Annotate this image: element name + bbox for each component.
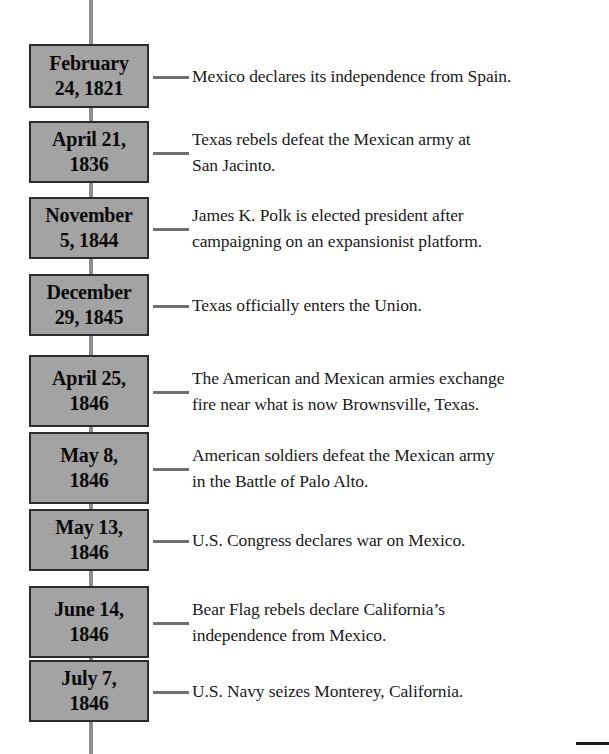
event-description-line: independence from Mexico. bbox=[192, 622, 592, 648]
event-connector-line bbox=[153, 540, 189, 543]
event-date-line: May 8, bbox=[60, 443, 118, 468]
event-description-line: American soldiers defeat the Mexican arm… bbox=[192, 442, 592, 468]
event-description-line: Texas officially enters the Union. bbox=[192, 292, 592, 318]
event-date-line: December bbox=[46, 280, 131, 305]
event-description-line: James K. Polk is elected president after bbox=[192, 202, 592, 228]
event-description-line: Texas rebels defeat the Mexican army at bbox=[192, 126, 592, 152]
event-description: Texas rebels defeat the Mexican army atS… bbox=[192, 126, 592, 178]
event-connector-line bbox=[153, 228, 189, 231]
event-connector-line bbox=[153, 76, 189, 79]
page-edge-mark bbox=[576, 742, 609, 745]
event-date-line: April 25, bbox=[52, 366, 126, 391]
event-description: Mexico declares its independence from Sp… bbox=[192, 63, 592, 89]
event-date-line: 5, 1844 bbox=[60, 228, 119, 253]
event-date-box[interactable]: May 8,1846 bbox=[29, 432, 149, 504]
event-date-box[interactable]: November5, 1844 bbox=[29, 197, 149, 259]
event-date-line: 24, 1821 bbox=[55, 76, 123, 101]
event-connector-line bbox=[153, 691, 189, 694]
event-date-line: February bbox=[49, 51, 129, 76]
event-connector-line bbox=[153, 468, 189, 471]
event-date-line: 1846 bbox=[69, 622, 108, 647]
event-description-line: San Jacinto. bbox=[192, 152, 592, 178]
event-date-line: 1846 bbox=[69, 468, 108, 493]
event-description-line: Bear Flag rebels declare California’s bbox=[192, 596, 592, 622]
event-description-line: campaigning on an expansionist platform. bbox=[192, 228, 592, 254]
event-date-box[interactable]: April 25,1846 bbox=[29, 355, 149, 427]
event-date-line: May 13, bbox=[55, 515, 122, 540]
event-description: American soldiers defeat the Mexican arm… bbox=[192, 442, 592, 494]
event-description-line: U.S. Congress declares war on Mexico. bbox=[192, 527, 592, 553]
event-date-box[interactable]: May 13,1846 bbox=[29, 509, 149, 571]
event-description: Bear Flag rebels declare California’sind… bbox=[192, 596, 592, 648]
event-connector-line bbox=[153, 391, 189, 394]
event-description-line: Mexico declares its independence from Sp… bbox=[192, 63, 592, 89]
event-date-line: 1846 bbox=[69, 391, 108, 416]
event-date-box[interactable]: February24, 1821 bbox=[29, 44, 149, 108]
event-date-line: July 7, bbox=[61, 666, 116, 691]
event-description: The American and Mexican armies exchange… bbox=[192, 365, 592, 417]
event-description: U.S. Navy seizes Monterey, California. bbox=[192, 678, 592, 704]
event-date-line: 1846 bbox=[69, 540, 108, 565]
event-description: James K. Polk is elected president after… bbox=[192, 202, 592, 254]
event-description-line: fire near what is now Brownsville, Texas… bbox=[192, 391, 592, 417]
event-description: Texas officially enters the Union. bbox=[192, 292, 592, 318]
event-connector-line bbox=[153, 305, 189, 308]
event-description-line: The American and Mexican armies exchange bbox=[192, 365, 592, 391]
event-date-line: June 14, bbox=[54, 597, 124, 622]
event-date-box[interactable]: December29, 1845 bbox=[29, 274, 149, 336]
event-description: U.S. Congress declares war on Mexico. bbox=[192, 527, 592, 553]
timeline: February24, 1821Mexico declares its inde… bbox=[0, 0, 609, 754]
event-connector-line bbox=[153, 152, 189, 155]
event-connector-line bbox=[153, 622, 189, 625]
event-date-line: April 21, bbox=[52, 127, 126, 152]
event-description-line: in the Battle of Palo Alto. bbox=[192, 468, 592, 494]
event-description-line: U.S. Navy seizes Monterey, California. bbox=[192, 678, 592, 704]
event-date-line: 1836 bbox=[69, 152, 108, 177]
event-date-box[interactable]: July 7,1846 bbox=[29, 660, 149, 722]
event-date-line: November bbox=[45, 203, 132, 228]
event-date-line: 1846 bbox=[69, 691, 108, 716]
event-date-line: 29, 1845 bbox=[55, 305, 123, 330]
event-date-box[interactable]: April 21,1836 bbox=[29, 121, 149, 183]
event-date-box[interactable]: June 14,1846 bbox=[29, 586, 149, 658]
